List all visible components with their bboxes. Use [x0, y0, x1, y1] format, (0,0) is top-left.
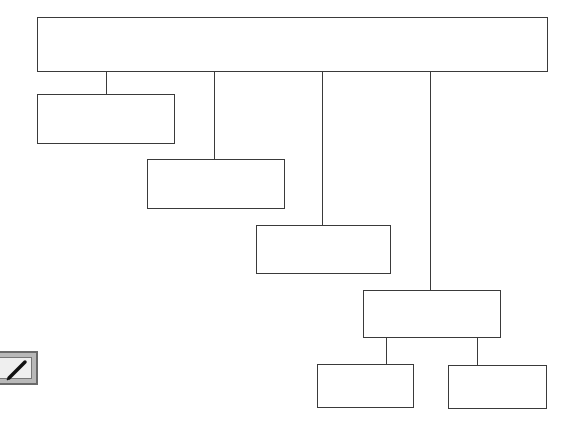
child-node-2	[147, 159, 285, 209]
child-node-3	[256, 225, 391, 274]
connector-root-n4	[430, 71, 431, 290]
connector-n4-n5	[386, 337, 387, 364]
connector-root-n2	[214, 71, 215, 159]
child-node-4	[363, 290, 501, 338]
grandchild-node-2	[448, 365, 547, 409]
child-node-1	[37, 94, 175, 144]
connector-root-n3	[322, 71, 323, 225]
root-node	[37, 17, 548, 72]
pen-icon	[0, 358, 35, 382]
connector-root-n1	[106, 71, 107, 94]
screen-area	[0, 357, 32, 379]
edit-screen-icon[interactable]	[0, 351, 38, 385]
connector-n4-n6	[477, 337, 478, 365]
grandchild-node-1	[317, 364, 414, 408]
